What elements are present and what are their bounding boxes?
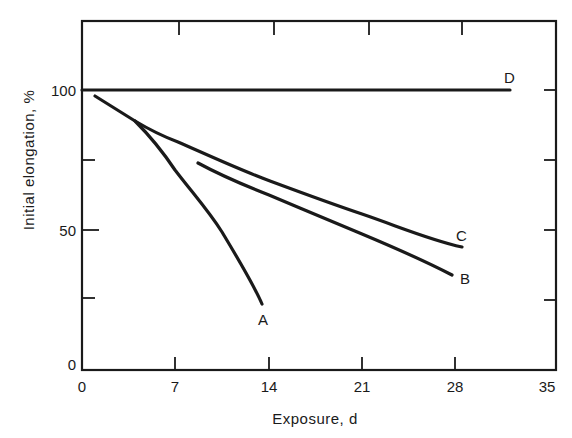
curve-label-b: B	[460, 270, 470, 287]
y-tick-label: 50	[59, 222, 76, 239]
x-tick-label: 35	[539, 378, 556, 395]
x-axis-ticks-bottom	[175, 357, 455, 370]
y-tick-label: 0	[68, 356, 76, 373]
y-axis-title: Initial elongation, %	[20, 90, 37, 231]
x-tick-label: 0	[78, 378, 86, 395]
x-tick-label: 7	[171, 378, 179, 395]
x-axis-ticks-top	[179, 21, 462, 35]
x-axis-title: Exposure, d	[272, 410, 358, 427]
curve-c	[95, 96, 462, 247]
x-tick-label: 28	[447, 378, 464, 395]
x-tick-label: 21	[354, 378, 371, 395]
curve-label-a: A	[258, 311, 268, 328]
y-axis-ticks-left	[82, 160, 99, 298]
curve-label-d: D	[504, 69, 515, 86]
chart: 0 7 14 21 28 35 0 50 100 Exposure, d Ini…	[0, 0, 572, 438]
y-tick-label: 100	[51, 82, 76, 99]
curve-label-c: C	[456, 227, 467, 244]
x-tick-label: 14	[261, 378, 278, 395]
y-tick-labels: 0 50 100	[51, 82, 76, 373]
y-axis-ticks-right	[544, 90, 556, 300]
plot-frame	[82, 21, 556, 370]
curve-a	[135, 121, 262, 304]
x-tick-labels: 0 7 14 21 28 35	[78, 378, 556, 395]
